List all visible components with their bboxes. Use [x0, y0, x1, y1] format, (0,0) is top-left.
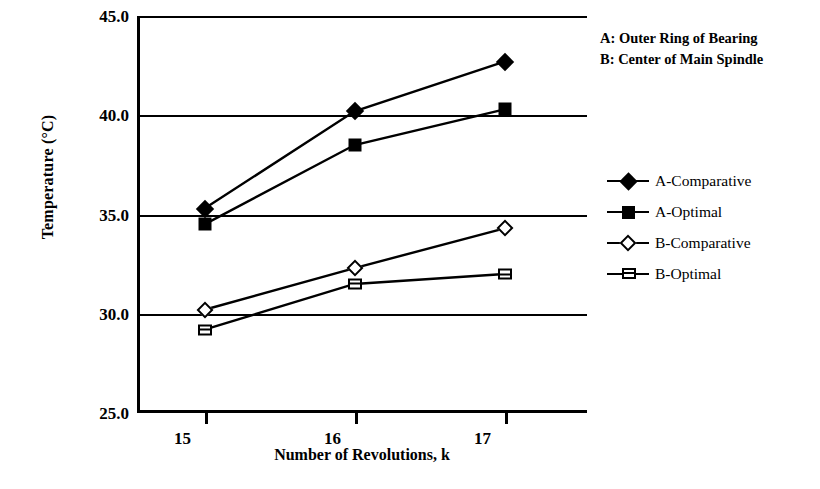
- chart-figure: Temperature (°C) 45.040.035.030.025.0 15…: [0, 0, 820, 489]
- legend-item: A-Optimal: [607, 196, 751, 227]
- annotation-line-b: B: Center of Main Spindle: [600, 49, 763, 70]
- y-tick-label: 45.0: [55, 8, 129, 25]
- x-axis-title: Number of Revolutions, k: [137, 446, 587, 464]
- legend-marker-shape: [622, 206, 635, 219]
- x-tick-label: 15: [153, 430, 213, 447]
- legend-item: A-Comparative: [607, 165, 751, 196]
- data-point-marker: [198, 324, 212, 335]
- legend-item: B-Optimal: [607, 258, 751, 289]
- data-point-marker: [348, 278, 362, 289]
- legend-marker-sample: [607, 203, 649, 221]
- legend-marker-shape: [622, 268, 636, 279]
- legend-item: B-Comparative: [607, 227, 751, 258]
- legend-marker-sample: [607, 172, 649, 190]
- x-tick-mark: [205, 413, 208, 424]
- data-point-marker: [498, 269, 512, 280]
- legend-marker-shape: [619, 172, 637, 190]
- y-tick-label: 30.0: [55, 305, 129, 322]
- legend-label: A-Optimal: [655, 204, 722, 220]
- legend-label: B-Optimal: [655, 266, 721, 282]
- chart-annotations: A: Outer Ring of Bearing B: Center of Ma…: [600, 28, 763, 70]
- data-point-marker: [348, 139, 361, 152]
- x-tick-label: 17: [453, 430, 513, 447]
- plot-area: 151617: [137, 16, 587, 413]
- series-line: [205, 109, 505, 224]
- legend-marker-sample: [607, 234, 649, 252]
- legend-marker-shape: [620, 234, 637, 251]
- x-tick-mark: [505, 413, 508, 424]
- y-tick-label: 25.0: [55, 405, 129, 422]
- x-tick-label: 16: [303, 430, 363, 447]
- x-tick-mark: [355, 413, 358, 424]
- legend-label: A-Comparative: [655, 173, 751, 189]
- annotation-line-a: A: Outer Ring of Bearing: [600, 28, 763, 49]
- y-tick-label: 35.0: [55, 206, 129, 223]
- data-point-marker: [198, 218, 211, 231]
- data-point-marker: [498, 103, 511, 116]
- y-axis-title: Temperature (°C): [39, 37, 57, 317]
- legend: A-ComparativeA-OptimalB-ComparativeB-Opt…: [607, 165, 751, 289]
- series-line: [205, 62, 505, 209]
- legend-label: B-Comparative: [655, 235, 751, 251]
- legend-marker-sample: [607, 265, 649, 283]
- y-tick-label: 40.0: [55, 107, 129, 124]
